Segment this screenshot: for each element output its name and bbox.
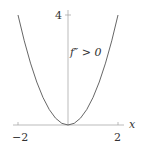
x-tick-label-neg2: −2: [12, 131, 28, 144]
x-axis-label: x: [129, 118, 136, 131]
second-derivative-annotation: f″ > 0: [69, 46, 101, 59]
parabola-diagram: 4 −2 2 x f″ > 0: [0, 0, 143, 148]
y-tick-label-4: 4: [55, 9, 62, 22]
x-tick-label-2: 2: [114, 131, 121, 144]
